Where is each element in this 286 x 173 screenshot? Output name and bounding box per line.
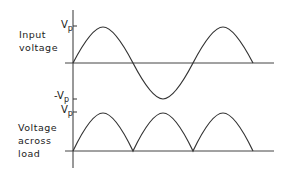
input-label-line1: Input — [19, 29, 46, 40]
load-label-line3: load — [18, 148, 40, 159]
load-label-line2: across — [18, 135, 51, 146]
input-vp-label: Vp — [61, 19, 73, 33]
load-label-line1: Voltage — [18, 122, 57, 133]
rectified-wave — [73, 113, 253, 151]
load-vp-label: Vp — [61, 104, 73, 118]
input-label-line2: voltage — [19, 42, 58, 53]
rectifier-diagram: Input voltage Voltage across load Vp -Vp… — [0, 0, 286, 173]
input-neg-vp-label: -Vp — [54, 90, 69, 104]
